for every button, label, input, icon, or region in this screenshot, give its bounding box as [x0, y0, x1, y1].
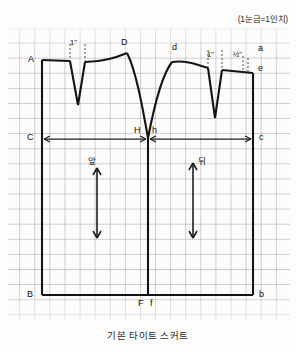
front-waistline-curve	[85, 53, 127, 62]
label-hip-center-left: H	[134, 126, 141, 135]
label-hem-left: B	[27, 290, 33, 299]
back-dart-right-inner	[208, 68, 222, 118]
pattern-drawing	[0, 0, 296, 351]
label-hem-center-right: f	[150, 299, 153, 308]
label-side-ease: ½"	[233, 51, 242, 59]
label-waist-right-upper: a	[258, 44, 263, 53]
label-dart-right-width: 1"	[207, 51, 214, 59]
label-dart-right-apex: d	[172, 43, 177, 52]
front-waistline-left	[42, 60, 70, 61]
label-dart-left-width: 1"	[70, 39, 77, 47]
label-hip-right: c	[259, 133, 264, 142]
front-dart-left-inner	[70, 61, 85, 105]
label-front-panel: 앞	[88, 157, 96, 166]
pattern-figure: (1눈금=1인치)	[0, 0, 296, 351]
figure-caption: 기본 타이트 스커트	[0, 328, 296, 342]
label-hem-right: b	[259, 290, 264, 299]
label-waist-right-lower: e	[258, 64, 263, 73]
label-dart-left-apex: D	[121, 38, 128, 47]
label-hip-center-right: h	[152, 126, 157, 135]
back-waistline-curve	[172, 61, 208, 68]
label-hem-center-left: F	[138, 299, 144, 308]
label-back-panel: 뒤	[198, 157, 206, 166]
label-waist-left: A	[28, 55, 34, 64]
label-hip-left: C	[27, 133, 34, 142]
